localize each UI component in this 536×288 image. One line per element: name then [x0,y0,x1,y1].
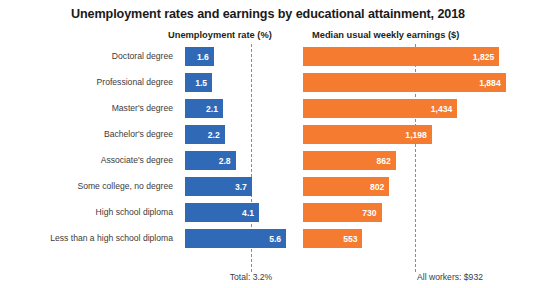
earnings-value-label: 1,198 [405,130,427,140]
reference-label-total-rate: Total: 3.2% [230,272,273,282]
unemployment-bar[interactable]: 2.8 [185,151,236,170]
earnings-bar[interactable]: 1,198 [303,125,432,144]
earnings-bar[interactable]: 862 [303,151,396,170]
category-label: Bachelor's degree [0,125,179,144]
unemployment-bar-track: 1.5 [185,73,297,92]
unemployment-bar[interactable]: 2.2 [185,125,225,144]
column-header-unemployment: Unemployment rate (%) [168,30,272,40]
reference-label-all-workers: All workers: $932 [417,272,483,282]
chart-row: Associate's degree2.8862 [0,151,536,177]
unemployment-bar[interactable]: 4.1 [185,203,259,222]
earnings-bar-track: 553 [303,229,516,248]
earnings-value-label: 802 [370,182,384,192]
earnings-value-label: 862 [376,156,390,166]
earnings-bar-track: 802 [303,177,516,196]
earnings-bar-track: 1,884 [303,73,516,92]
earnings-bar-track: 862 [303,151,516,170]
earnings-value-label: 730 [362,208,376,218]
category-label: Some college, no degree [0,177,179,196]
unemployment-bar-track: 4.1 [185,203,297,222]
earnings-bar[interactable]: 730 [303,203,382,222]
unemployment-value-label: 4.1 [242,208,254,218]
earnings-bar-track: 730 [303,203,516,222]
column-header-earnings: Median usual weekly earnings ($) [312,30,459,40]
earnings-bar-track: 1,434 [303,99,516,118]
unemployment-value-label: 1.5 [195,78,207,88]
unemployment-bar[interactable]: 1.5 [185,73,212,92]
category-label: Master's degree [0,99,179,118]
unemployment-bar-track: 2.1 [185,99,297,118]
earnings-value-label: 1,825 [473,52,495,62]
unemployment-value-label: 2.8 [219,156,231,166]
earnings-value-label: 553 [343,234,357,244]
earnings-bar[interactable]: 1,884 [303,73,506,92]
page-title: Unemployment rates and earnings by educa… [0,7,536,21]
category-label: Associate's degree [0,151,179,170]
unemployment-bar-track: 5.6 [185,229,297,248]
earnings-bar[interactable]: 553 [303,229,362,248]
unemployment-bar[interactable]: 2.1 [185,99,223,118]
unemployment-bar-track: 2.2 [185,125,297,144]
category-label: Doctoral degree [0,47,179,66]
chart-row: Professional degree1.51,884 [0,73,536,99]
chart-row: Master's degree2.11,434 [0,99,536,125]
chart-rows: Doctoral degree1.61,825Professional degr… [0,47,536,255]
unemployment-value-label: 1.6 [197,52,209,62]
earnings-bar-track: 1,198 [303,125,516,144]
unemployment-bar[interactable]: 5.6 [185,229,286,248]
earnings-value-label: 1,434 [431,104,453,114]
category-label: High school diploma [0,203,179,222]
chart-row: Less than a high school diploma5.6553 [0,229,536,255]
chart-container: Unemployment rates and earnings by educa… [0,0,536,288]
earnings-value-label: 1,884 [479,78,501,88]
chart-row: High school diploma4.1730 [0,203,536,229]
unemployment-value-label: 2.1 [206,104,218,114]
unemployment-value-label: 2.2 [208,130,220,140]
chart-row: Doctoral degree1.61,825 [0,47,536,73]
category-label: Less than a high school diploma [0,229,179,248]
earnings-bar-track: 1,825 [303,47,516,66]
unemployment-bar[interactable]: 1.6 [185,47,214,66]
chart-row: Some college, no degree3.7802 [0,177,536,203]
category-label: Professional degree [0,73,179,92]
unemployment-bar-track: 2.8 [185,151,297,170]
unemployment-bar[interactable]: 3.7 [185,177,252,196]
unemployment-value-label: 3.7 [235,182,247,192]
unemployment-bar-track: 3.7 [185,177,297,196]
unemployment-bar-track: 1.6 [185,47,297,66]
earnings-bar[interactable]: 802 [303,177,389,196]
chart-row: Bachelor's degree2.21,198 [0,125,536,151]
unemployment-value-label: 5.6 [269,234,281,244]
earnings-bar[interactable]: 1,825 [303,47,499,66]
earnings-bar[interactable]: 1,434 [303,99,457,118]
